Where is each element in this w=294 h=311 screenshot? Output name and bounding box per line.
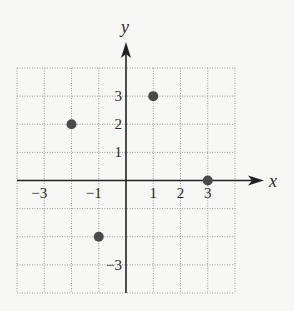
data-point <box>148 91 158 101</box>
y-tick-label: 2 <box>115 116 123 132</box>
y-tick-label: −3 <box>106 257 122 273</box>
y-axis-label: y <box>119 17 129 37</box>
data-point <box>203 176 213 186</box>
data-point <box>94 232 104 242</box>
x-tick-label: 2 <box>177 185 185 201</box>
x-tick-label: 3 <box>204 185 212 201</box>
y-tick-label: 1 <box>115 144 123 160</box>
data-points <box>67 91 213 242</box>
x-axis-label: x <box>268 171 277 191</box>
x-tick-label: 1 <box>150 185 158 201</box>
x-tick-labels: −3−1123 <box>31 185 211 201</box>
coordinate-plane: x y −3−1123 321−3 <box>0 0 294 311</box>
y-tick-label: 3 <box>115 88 123 104</box>
x-tick-label: −1 <box>86 185 102 201</box>
x-tick-label: −3 <box>31 185 47 201</box>
data-point <box>67 119 77 129</box>
axes: x y <box>17 17 277 293</box>
